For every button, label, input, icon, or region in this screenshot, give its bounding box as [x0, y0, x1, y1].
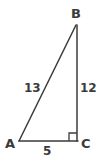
right-angle-marker-icon	[69, 133, 77, 141]
side-length-label-base-leg: 5	[43, 145, 51, 157]
right-triangle-figure: B A C 13 12 5	[0, 0, 99, 161]
vertex-label-c: C	[81, 137, 91, 150]
side-length-label-hypotenuse: 13	[24, 82, 41, 94]
side-length-label-vertical-leg: 12	[80, 82, 97, 94]
vertex-label-a: A	[5, 137, 15, 150]
vertex-label-b: B	[71, 7, 81, 20]
